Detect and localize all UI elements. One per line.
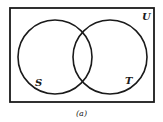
- set-t-circle: [73, 20, 147, 94]
- set-t-label: T: [125, 75, 134, 86]
- venn-diagram: U S T (a): [0, 0, 163, 122]
- universe-rectangle: [10, 8, 154, 102]
- figure-caption: (a): [76, 109, 87, 118]
- set-s-label: S: [35, 77, 42, 88]
- universe-label: U: [142, 11, 152, 22]
- set-s-circle: [18, 20, 92, 94]
